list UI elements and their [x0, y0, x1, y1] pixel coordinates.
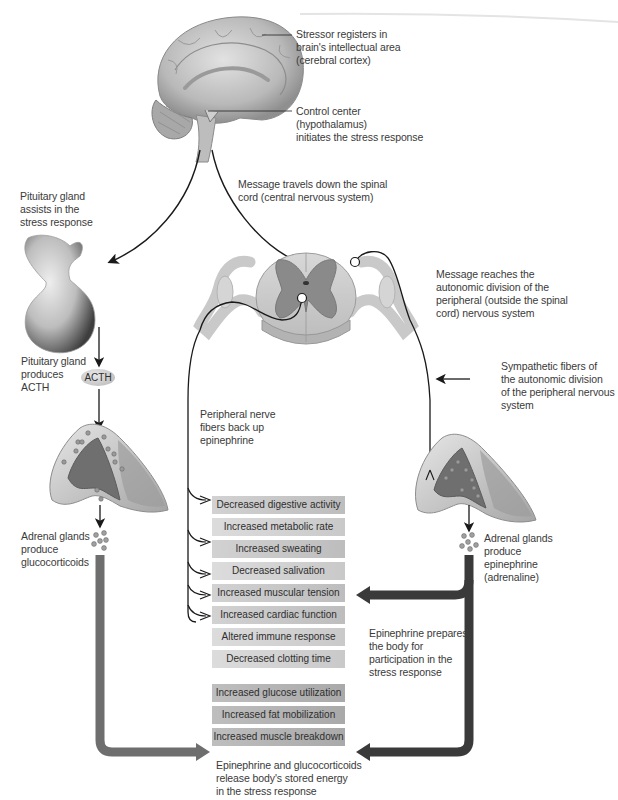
adrenal-gland-left-illustration: [50, 424, 168, 512]
label-adrenal-glucocorticoids: Adrenal glands produce glucocorticoids: [21, 530, 90, 569]
energy-effect-box: Increased glucose utilization: [212, 684, 345, 702]
epinephrine-effects-arrow: [368, 580, 469, 595]
energy-effect-box: Increased fat mobilization: [212, 706, 345, 724]
effect-box: Increased cardiac function: [212, 606, 345, 624]
effect-box: Increased sweating: [212, 540, 345, 558]
effect-box: Altered immune response: [212, 628, 345, 646]
glucocorticoid-pathway-arrow: [100, 555, 198, 752]
glucocorticoid-molecules-icon: [92, 531, 109, 551]
label-pituitary-assists: Pituitary gland assists in the stress re…: [20, 190, 93, 229]
effect-box: Decreased digestive activity: [212, 496, 345, 514]
epinephrine-molecules-icon: [460, 533, 479, 552]
effect-box: Increased metabolic rate: [212, 518, 345, 536]
label-epinephrine-prepares: Epinephrine prepares the body for partic…: [369, 627, 467, 679]
label-peripheral-fibers: Peripheral nerve fibers back up epinephr…: [200, 408, 275, 447]
effect-box: Decreased salivation: [212, 562, 345, 580]
energy-effect-box: Increased muscle breakdown: [212, 728, 345, 746]
label-message-spinal: Message travels down the spinal cord (ce…: [238, 178, 387, 204]
pituitary-gland-illustration: [25, 235, 95, 353]
effect-box: Increased muscular tension: [212, 584, 345, 602]
label-message-reaches: Message reaches the autonomic division o…: [436, 268, 568, 320]
acth-badge: ACTH: [81, 369, 115, 386]
label-pituitary-produces: Pituitary gland produces ACTH: [21, 355, 86, 394]
label-energy-release: Epinephrine and glucocorticoids release …: [216, 759, 362, 798]
label-stressor: Stressor registers in brain's intellectu…: [296, 28, 401, 67]
label-adrenal-epinephrine: Adrenal glands produce epinephrine (adre…: [484, 532, 553, 584]
label-sympathetic-fibers: Sympathetic fibers of the autonomic divi…: [501, 360, 615, 412]
effect-box: Decreased clotting time: [212, 650, 345, 668]
brain-illustration: [152, 17, 303, 162]
label-control-center: Control center (hypothalamus) initiates …: [296, 105, 423, 144]
